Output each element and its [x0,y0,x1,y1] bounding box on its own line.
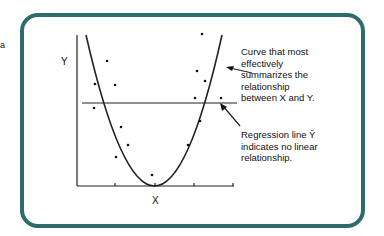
y-axis-label: Y [61,56,68,67]
x-axis-label: X [152,195,159,206]
curve-annotation: Curve that most effectively summarizes t… [241,46,315,104]
scatter-plot [0,0,384,236]
regression-annotation: Regression line Ŷ indicates no linear re… [241,129,318,164]
curve-arrow-head [226,66,234,71]
parabola-curve [86,35,222,186]
data-points [93,33,223,177]
regression-arrow-line [223,106,240,126]
